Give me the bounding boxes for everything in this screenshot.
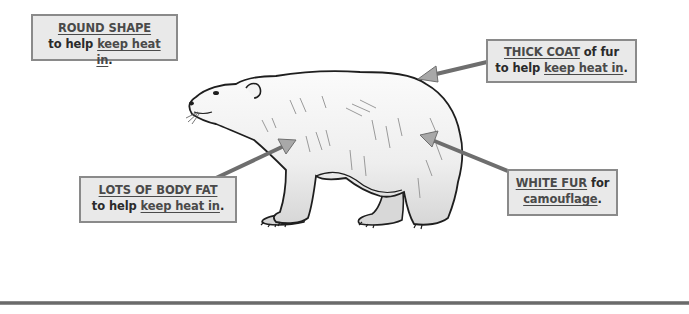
label-line-2: to help keep heat in.	[494, 60, 629, 76]
key-phrase: camouflage	[523, 192, 597, 206]
label-white-fur: WHITE FUR for camouflage.	[507, 169, 618, 216]
label-line-2: camouflage.	[515, 191, 610, 207]
key-term: LOTS OF BODY FAT	[99, 183, 218, 197]
page-divider-line	[0, 301, 689, 305]
key-phrase: keep heat in	[141, 199, 220, 213]
label-body-fat: LOTS OF BODY FAT to help keep heat in.	[79, 176, 237, 223]
key-phrase: keep heat in	[544, 61, 623, 75]
label-line-1: WHITE FUR for	[515, 175, 610, 191]
label-line-1: LOTS OF BODY FAT	[87, 182, 229, 198]
label-line-2: to help keep heat in.	[39, 36, 170, 68]
arrow-thick-coat	[418, 62, 487, 82]
diagram-canvas: ROUND SHAPE to help keep heat in. THICK …	[0, 0, 689, 314]
arrow-white-fur	[420, 131, 510, 172]
key-term: THICK COAT	[504, 45, 580, 59]
label-line-1: THICK COAT of fur	[494, 44, 629, 60]
key-term: WHITE FUR	[516, 176, 587, 190]
label-thick-coat: THICK COAT of fur to help keep heat in.	[486, 39, 637, 83]
arrow-body-fat	[216, 139, 296, 178]
label-round-shape: ROUND SHAPE to help keep heat in.	[31, 14, 178, 61]
key-phrase: keep heat in	[96, 37, 160, 67]
label-line-2: to help keep heat in.	[87, 198, 229, 214]
key-term: ROUND SHAPE	[58, 21, 151, 35]
label-line-1: ROUND SHAPE	[39, 20, 170, 36]
